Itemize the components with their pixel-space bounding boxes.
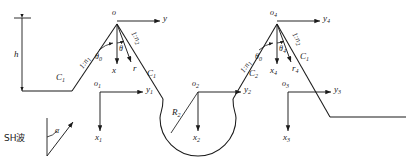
c1-left-subscript: 1 — [62, 77, 65, 83]
label-theta0-left: θ0 — [95, 53, 102, 61]
r4-subscript: 4 — [296, 68, 299, 74]
label-axis-y3: y3 — [334, 85, 341, 94]
label-theta0-right: θ0 — [255, 53, 262, 61]
label-origin-o3: o3 — [282, 80, 289, 88]
c1-mid-subscript: 1 — [153, 73, 156, 79]
slope-right-descending — [277, 24, 330, 117]
label-height-h: h — [14, 50, 19, 59]
label-theta-left: θ — [119, 45, 123, 53]
o2-subscript: 2 — [196, 83, 199, 89]
r2-text: R — [172, 107, 178, 117]
label-axis-x3: x3 — [283, 133, 290, 142]
label-origin-o: o — [112, 9, 116, 17]
c2-right-subscript: 1 — [306, 56, 309, 62]
label-curve-c2-right: C1 — [300, 52, 309, 61]
o4-subscript: 4 — [274, 12, 277, 18]
label-axis-y1: y1 — [146, 85, 153, 94]
label-axis-x: x — [112, 66, 116, 75]
label-origin-o2: o2 — [192, 80, 199, 88]
theta0-angle-arc — [99, 43, 113, 50]
y3-subscript: 3 — [338, 89, 341, 95]
theta0-subscript: 0 — [99, 56, 102, 62]
label-axis-y: y — [163, 14, 167, 23]
theta4-angle-arc — [277, 41, 284, 43]
label-axis-r4: r4 — [292, 64, 299, 73]
label-axis-y2: y2 — [244, 85, 251, 94]
label-theta4: θ4 — [279, 45, 286, 53]
theta-angle-arc — [117, 41, 124, 43]
label-curve-c1-mid: C1 — [147, 69, 156, 78]
x3-subscript: 3 — [287, 137, 290, 143]
theta0-right-subscript: 0 — [259, 56, 262, 62]
label-axis-r: r — [133, 64, 137, 73]
label-curve-c1-left: C1 — [56, 73, 65, 82]
o3-subscript: 3 — [286, 83, 289, 89]
theta0-right-angle-arc — [259, 43, 273, 50]
label-origin-o1: o1 — [94, 80, 101, 88]
x1-subscript: 1 — [99, 137, 102, 143]
label-axis-x1: x1 — [95, 133, 102, 142]
sh-wave-incident-ray — [47, 122, 73, 156]
label-axis-x2: x2 — [193, 133, 200, 142]
label-axis-y4: y4 — [323, 14, 330, 23]
x4-subscript: 4 — [274, 70, 277, 76]
slope-right-ascending — [233, 24, 277, 99]
o1-subscript: 1 — [98, 83, 101, 89]
label-incidence-angle-alpha: α — [55, 127, 59, 135]
y1-subscript: 1 — [150, 89, 153, 95]
label-axis-x4: x4 — [270, 66, 277, 75]
label-origin-o4: o4 — [270, 9, 277, 17]
r4-text: r — [292, 63, 296, 73]
y2-subscript: 2 — [248, 89, 251, 95]
y4-subscript: 4 — [327, 18, 330, 24]
r2-subscript: 2 — [178, 112, 181, 118]
diagram-canvas: h SH波 α o y x r θ0 θ 1:n1 1:n2 C1 C1 C2 … — [0, 0, 408, 162]
label-radius-r2: R2 — [172, 108, 181, 117]
theta4-subscript: 4 — [283, 48, 286, 54]
c2-mid-subscript: 2 — [255, 73, 258, 79]
label-sh-wave: SH波 — [4, 134, 25, 143]
x2-subscript: 2 — [197, 137, 200, 143]
label-curve-c2-mid: C2 — [249, 69, 258, 78]
